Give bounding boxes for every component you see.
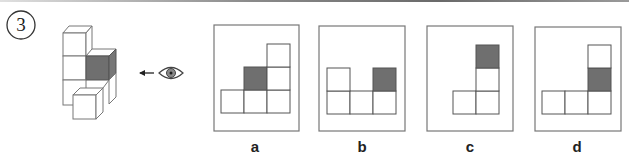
grid-cell [542, 91, 565, 114]
cube-stack-figure [63, 26, 116, 119]
grid-cell [327, 68, 350, 91]
option-panel-d[interactable] [535, 27, 621, 131]
option-label-a: a [245, 138, 265, 155]
option-label-b: b [352, 138, 372, 155]
shaded-cell [588, 68, 611, 91]
grid-cell [350, 91, 373, 114]
option-label-d: d [567, 138, 587, 155]
option-frame [427, 26, 513, 131]
grid-cell [267, 67, 290, 90]
grid-cell [588, 45, 611, 68]
grid-cell [565, 91, 588, 114]
option-panel-c[interactable] [427, 26, 513, 131]
option-panel-a[interactable] [214, 25, 299, 131]
option-label-c: c [460, 138, 480, 155]
grid-cell [453, 91, 476, 114]
grid-cell [588, 91, 611, 114]
grid-cell [476, 68, 499, 91]
shaded-cell [244, 67, 267, 90]
grid-cell [267, 44, 290, 67]
shaded-cell [373, 68, 396, 91]
grid-cell [476, 91, 499, 114]
grid-cell [373, 91, 396, 114]
grid-cell [267, 90, 290, 113]
eye-icon [159, 68, 183, 79]
diagram-canvas [0, 0, 629, 165]
grid-cell [244, 90, 267, 113]
question-number-circle [7, 11, 35, 39]
shaded-cell [476, 45, 499, 68]
grid-cell [327, 91, 350, 114]
arrow-left-icon [139, 70, 154, 76]
option-panel-b[interactable] [319, 26, 405, 131]
grid-cell [221, 90, 244, 113]
